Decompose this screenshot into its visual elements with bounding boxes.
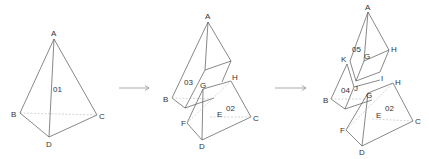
- vertex-label-b: B: [11, 110, 16, 119]
- vertex-label-c: C: [99, 112, 105, 121]
- piece-label-05: 05: [352, 45, 361, 54]
- vertex-label-f: F: [181, 119, 186, 128]
- vertex-label-a: A: [205, 12, 211, 21]
- vertex-label-j: J: [354, 84, 358, 93]
- vertex-label-h: H: [232, 73, 238, 82]
- piece-label-04: 04: [341, 86, 350, 95]
- vertex-label-e: E: [376, 111, 381, 120]
- vertex-label-b: B: [163, 95, 168, 104]
- vertex-label-c: C: [415, 117, 421, 126]
- diagram-canvas: A B C D 01 03 A B G H C D: [0, 0, 429, 159]
- vertex-label-h: H: [395, 78, 401, 87]
- stage3-pieces: 05 A G H K I J B 04 G H C D F E 02: [323, 3, 421, 157]
- vertex-label-b: B: [323, 96, 328, 105]
- stage2-pieces: 03 A B G H C D F E 02: [163, 12, 259, 151]
- piece-label-03: 03: [184, 78, 193, 87]
- vertex-label-i: I: [381, 74, 383, 83]
- arrow-icon: [119, 86, 149, 91]
- vertex-label-k: K: [341, 55, 347, 64]
- vertex-label-a: A: [365, 3, 371, 12]
- piece-label-01: 01: [53, 85, 62, 94]
- vertex-label-d: D: [359, 148, 365, 157]
- vertex-label-a: A: [51, 29, 57, 38]
- vertex-label-g: G: [364, 52, 370, 61]
- vertex-label-h: H: [391, 45, 397, 54]
- vertex-label-e: E: [217, 110, 222, 119]
- piece-label-02: 02: [226, 104, 235, 113]
- vertex-label-d: D: [46, 140, 52, 149]
- arrow-icon: [275, 86, 306, 91]
- vertex-label-g: G: [200, 81, 206, 90]
- vertex-label-c: C: [253, 114, 259, 123]
- vertex-label-f: F: [340, 126, 345, 135]
- stage1-tetrahedron: A B C D 01: [11, 29, 105, 149]
- piece-label-02: 02: [385, 104, 394, 113]
- vertex-label-g: G: [366, 91, 372, 100]
- vertex-label-d: D: [199, 142, 205, 151]
